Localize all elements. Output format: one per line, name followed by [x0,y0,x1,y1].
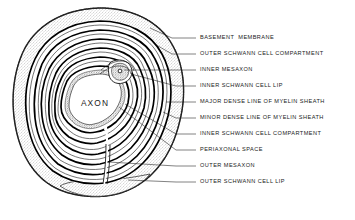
label-outer-schwann-cell-lip: OUTER SCHWANN CELL LIP [200,178,285,184]
label-minor-dense-line: MINOR DENSE LINE OF MYELIN SHEATH [200,114,324,120]
inner-mesaxon-region [108,60,132,84]
label-periaxonal-space: PERIAXONAL SPACE [200,146,263,152]
label-major-dense-line: MAJOR DENSE LINE OF MYELIN SHEATH [200,98,325,104]
label-list: BASEMENT MEMBRANE OUTER SCHWANN CELL COM… [200,34,325,184]
figure-canvas: AXON BASEMENT MEMBRANE OUTER SCHWANN CEL… [0,0,355,220]
label-inner-schwann-cell-compartment: INNER SCHWANN CELL COMPARTMENT [200,130,321,136]
label-outer-mesaxon: OUTER MESAXON [200,162,255,168]
label-basement-membrane: BASEMENT MEMBRANE [200,34,274,40]
label-inner-mesaxon: INNER MESAXON [200,66,253,72]
axon-center-label: AXON [81,98,109,108]
myelinated-axon-diagram: AXON BASEMENT MEMBRANE OUTER SCHWANN CEL… [0,0,355,220]
label-inner-schwann-cell-lip: INNER SCHWANN CELL LIP [200,82,283,88]
inner-mesaxon-point [118,69,122,73]
nerve-fiber-body: AXON [13,8,184,196]
label-outer-schwann-cell-compartment: OUTER SCHWANN CELL COMPARTMENT [200,50,324,56]
